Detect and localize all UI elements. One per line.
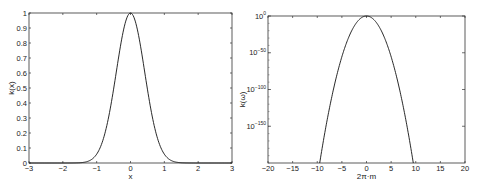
series-line — [29, 13, 232, 163]
y-tick-label: 0.7 — [17, 54, 27, 63]
series-line — [320, 16, 414, 163]
x-tick-label: −1 — [92, 164, 101, 173]
y-tick-label: 100 — [255, 10, 266, 21]
y-tick-label: 1 — [23, 9, 27, 18]
x-tick-label: 2 — [196, 164, 200, 173]
y-tick-label: 0.8 — [17, 39, 27, 48]
y-tick-label: 0.5 — [17, 84, 27, 93]
y-tick-label: 0.9 — [17, 24, 27, 33]
x-tick-label: −20 — [262, 164, 275, 173]
x-tick-label: −5 — [338, 164, 347, 173]
x-tick-label: −15 — [286, 164, 299, 173]
y-tick-label: 0 — [23, 159, 27, 168]
x-tick-label: −10 — [311, 164, 324, 173]
x-tick-label: 10 — [412, 164, 420, 173]
y-tick-label: 10−100 — [246, 84, 266, 95]
y-tick-label: 0.3 — [17, 114, 27, 123]
x-tick-label: 3 — [230, 164, 234, 173]
x-axis-label: 2π·m — [357, 172, 377, 181]
x-tick-label: 15 — [436, 164, 444, 173]
x-axis-label: x — [129, 172, 133, 181]
plot-area — [268, 16, 465, 163]
y-tick-label: 10−150 — [246, 120, 266, 131]
chart-right: −20−15−10−50510152010010−5010−10010−1502… — [238, 10, 469, 181]
y-tick-label: 0.2 — [17, 129, 27, 138]
x-tick-label: 5 — [389, 164, 393, 173]
figure: −3−2−1012300.10.20.30.40.50.60.70.80.91x… — [0, 0, 480, 185]
y-tick-label: 10−50 — [249, 47, 266, 58]
y-axis-label: k(ω) — [238, 91, 247, 107]
y-tick-label: 0.6 — [17, 69, 27, 78]
y-tick-label: 0.1 — [17, 144, 27, 153]
plot-area — [29, 13, 232, 163]
x-tick-label: −2 — [59, 164, 68, 173]
y-tick-label: 0.4 — [17, 99, 27, 108]
chart-left: −3−2−1012300.10.20.30.40.50.60.70.80.91x… — [7, 9, 234, 182]
x-tick-label: 1 — [162, 164, 166, 173]
x-tick-label: 20 — [461, 164, 469, 173]
y-axis-label: k(x) — [7, 81, 16, 95]
